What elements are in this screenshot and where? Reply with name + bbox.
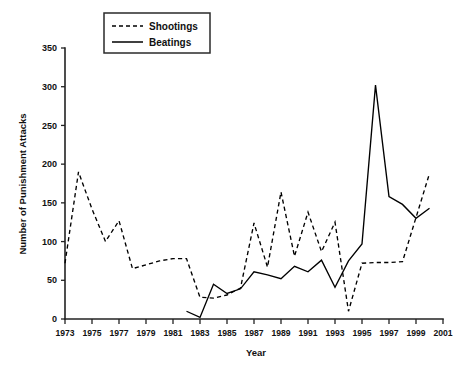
x-axis-title: Year bbox=[246, 347, 266, 358]
legend-label-beatings: Beatings bbox=[149, 37, 192, 48]
x-tick-label: 1995 bbox=[352, 328, 371, 338]
x-tick-label: 1991 bbox=[298, 328, 317, 338]
x-tick-label: 1997 bbox=[379, 328, 398, 338]
axes-group bbox=[65, 48, 443, 319]
x-tick-label: 1973 bbox=[55, 328, 74, 338]
x-axis-ticks: 1973197519771979198119831985198719891991… bbox=[55, 319, 452, 338]
x-tick-label: 1975 bbox=[82, 328, 101, 338]
chart-svg: 050100150200250300350 197319751977197919… bbox=[0, 0, 471, 376]
x-tick-label: 1987 bbox=[244, 328, 263, 338]
legend-label-shootings: Shootings bbox=[149, 21, 198, 32]
y-tick-label: 150 bbox=[42, 198, 57, 208]
y-tick-label: 100 bbox=[42, 237, 57, 247]
y-tick-label: 350 bbox=[42, 43, 57, 53]
x-tick-label: 1999 bbox=[406, 328, 425, 338]
x-tick-label: 1983 bbox=[190, 328, 209, 338]
y-axis-title: Number of Punishment Attacks bbox=[17, 113, 28, 254]
y-tick-label: 250 bbox=[42, 121, 57, 131]
x-tick-label: 1985 bbox=[217, 328, 236, 338]
x-tick-label: 1989 bbox=[271, 328, 290, 338]
y-axis-ticks: 050100150200250300350 bbox=[42, 43, 65, 324]
series-line-shootings bbox=[65, 172, 430, 311]
x-tick-label: 1979 bbox=[136, 328, 155, 338]
y-tick-label: 50 bbox=[47, 275, 57, 285]
x-tick-label: 2001 bbox=[433, 328, 452, 338]
x-tick-label: 1993 bbox=[325, 328, 344, 338]
y-tick-label: 200 bbox=[42, 159, 57, 169]
series-group bbox=[65, 85, 430, 317]
chart-legend: Shootings Beatings bbox=[104, 13, 210, 53]
series-line-beatings bbox=[187, 85, 430, 317]
y-tick-label: 300 bbox=[42, 82, 57, 92]
x-tick-label: 1981 bbox=[163, 328, 182, 338]
x-tick-label: 1977 bbox=[109, 328, 128, 338]
punishment-attacks-chart: 050100150200250300350 197319751977197919… bbox=[0, 0, 471, 376]
y-tick-label: 0 bbox=[52, 314, 57, 324]
